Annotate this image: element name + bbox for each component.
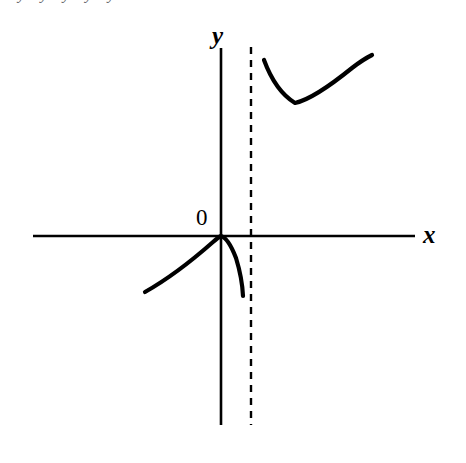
x-axis-label: x <box>423 222 436 247</box>
graph-canvas <box>0 0 466 463</box>
graph-figure: y y y y y y x 0 <box>0 0 466 463</box>
origin-label: 0 <box>196 206 208 229</box>
curve-right-branch <box>264 55 372 103</box>
y-axis-label: y <box>212 23 223 48</box>
curve-left-branch <box>145 236 243 296</box>
